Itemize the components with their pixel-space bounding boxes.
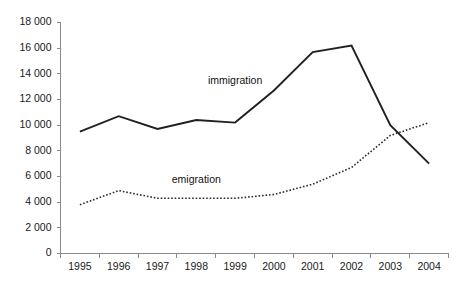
x-tick-label: 1998 bbox=[185, 260, 209, 272]
y-tick-label: 8 000 bbox=[25, 144, 51, 156]
x-tick-label: 2000 bbox=[262, 260, 286, 272]
y-tick-label: 4 000 bbox=[25, 195, 51, 207]
y-tick-label: 14 000 bbox=[19, 67, 51, 79]
y-tick-label: 12 000 bbox=[19, 92, 51, 104]
x-tick-label: 2003 bbox=[379, 260, 403, 272]
x-tick-label: 2001 bbox=[301, 260, 325, 272]
y-tick-label: 2 000 bbox=[25, 221, 51, 233]
x-tick-label: 1995 bbox=[68, 260, 92, 272]
y-tick-label: 0 bbox=[46, 246, 52, 258]
series-line-emigration bbox=[80, 123, 429, 205]
y-axis-tick-marks bbox=[57, 23, 61, 254]
x-tick-label: 1999 bbox=[223, 260, 247, 272]
y-tick-label: 16 000 bbox=[19, 41, 51, 53]
x-tick-label: 1996 bbox=[107, 260, 131, 272]
y-tick-label: 6 000 bbox=[25, 169, 51, 181]
x-axis-tick-labels: 1995199619971998199920002001200220032004 bbox=[68, 260, 441, 272]
y-tick-label: 10 000 bbox=[19, 118, 51, 130]
y-axis-tick-labels: 02 0004 0006 0008 00010 00012 00014 0001… bbox=[19, 15, 51, 258]
series-label-emigration: emigration bbox=[172, 173, 221, 185]
x-axis-tick-marks bbox=[61, 254, 449, 258]
y-tick-label: 18 000 bbox=[19, 15, 51, 27]
x-tick-label: 2002 bbox=[340, 260, 364, 272]
x-tick-label: 2004 bbox=[417, 260, 441, 272]
series-label-immigration: immigration bbox=[208, 74, 262, 86]
line-chart: 02 0004 0006 0008 00010 00012 00014 0001… bbox=[0, 0, 460, 282]
x-tick-label: 1997 bbox=[146, 260, 170, 272]
chart-container: 02 0004 0006 0008 00010 00012 00014 0001… bbox=[0, 0, 460, 282]
